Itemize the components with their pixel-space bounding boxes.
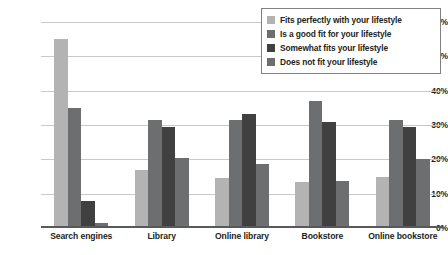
bar xyxy=(295,182,309,228)
bar xyxy=(309,101,323,228)
x-axis-line xyxy=(41,226,443,228)
x-axis-category-label: Search engines xyxy=(41,232,121,241)
bar-group xyxy=(121,22,201,228)
legend-item-label: Is a good fit for your lifestyle xyxy=(280,30,391,38)
bar xyxy=(229,120,243,228)
legend-item-label: Fits perfectly with your lifestyle xyxy=(280,16,402,24)
bar xyxy=(403,127,417,228)
legend: Fits perfectly with your lifestyleIs a g… xyxy=(261,8,441,74)
legend-item: Is a good fit for your lifestyle xyxy=(267,27,435,41)
bar-chart: 60%50%40%30%20%10%0% Search enginesLibra… xyxy=(0,0,448,255)
bar xyxy=(242,114,256,228)
bar xyxy=(376,177,390,228)
legend-item: Fits perfectly with your lifestyle xyxy=(267,13,435,27)
legend-item: Does not fit your lifestyle xyxy=(267,55,435,69)
bar xyxy=(81,201,95,228)
legend-color-swatch-icon xyxy=(267,44,275,52)
bar xyxy=(322,122,336,228)
bar xyxy=(54,39,68,228)
bar xyxy=(256,164,270,228)
bar xyxy=(162,127,176,228)
legend-item-label: Somewhat fits your lifestyle xyxy=(280,44,388,52)
x-axis-labels: Search enginesLibraryOnline libraryBooks… xyxy=(41,232,443,241)
bar xyxy=(215,178,229,228)
bar xyxy=(135,170,149,228)
legend-item-label: Does not fit your lifestyle xyxy=(280,58,377,66)
bar xyxy=(148,120,162,228)
legend-color-swatch-icon xyxy=(267,58,275,66)
bar xyxy=(68,108,82,228)
legend-item: Somewhat fits your lifestyle xyxy=(267,41,435,55)
bar xyxy=(389,120,403,228)
x-axis-category-label: Bookstore xyxy=(282,232,362,241)
bar xyxy=(175,158,189,228)
legend-color-swatch-icon xyxy=(267,30,275,38)
x-axis-category-label: Library xyxy=(121,232,201,241)
bar xyxy=(416,159,430,228)
legend-color-swatch-icon xyxy=(267,16,275,24)
bar xyxy=(336,181,350,228)
x-axis-category-label: Online library xyxy=(202,232,282,241)
x-axis-category-label: Online bookstore xyxy=(363,232,443,241)
bar-group xyxy=(41,22,121,228)
